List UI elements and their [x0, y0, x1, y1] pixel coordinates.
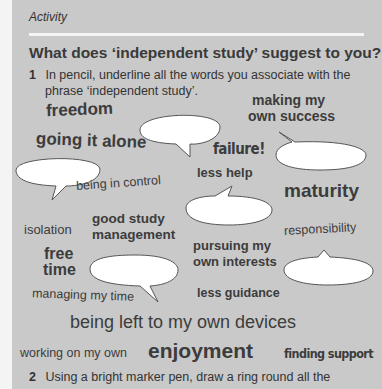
speech-bubble [284, 250, 373, 285]
instruction-number: 2 [29, 370, 36, 384]
word-less-guidance: less guidance [197, 286, 280, 300]
word-own-interests: own interests [193, 254, 277, 269]
word-maturity: maturity [284, 180, 359, 202]
word-pursuing: pursuing my [193, 238, 271, 253]
word-working-own: working on my own [20, 346, 127, 360]
word-making: making my [252, 92, 325, 108]
speech-bubble [186, 186, 272, 225]
instruction-text: Using a bright marker pen, draw a ring r… [45, 370, 330, 384]
word-freedom: freedom [46, 99, 114, 121]
word-enjoyment: enjoyment [148, 339, 253, 363]
word-less-help: less help [197, 165, 253, 180]
word-failure: failure! [213, 140, 265, 158]
word-isolation: isolation [24, 222, 72, 237]
word-own-success: own success [248, 108, 335, 124]
speech-bubble [276, 132, 366, 170]
word-finding-support: finding support [284, 346, 373, 361]
word-time: time [43, 261, 76, 279]
word-going-alone: going it alone [36, 129, 147, 153]
speech-bubble [140, 115, 220, 157]
instruction-2: 2 Using a bright marker pen, draw a ring… [29, 370, 330, 384]
word-management: management [92, 227, 175, 242]
word-left-devices: being left to my own devices [70, 312, 296, 333]
word-good-study: good study [92, 211, 165, 226]
